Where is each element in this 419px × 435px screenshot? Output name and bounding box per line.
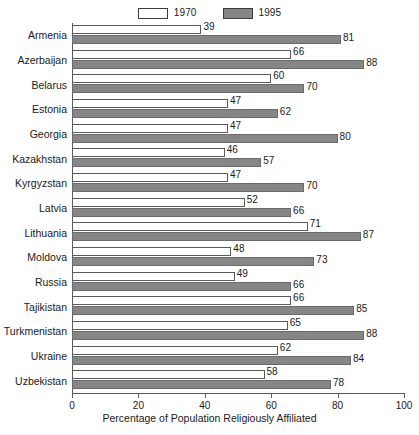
category-label-russia: Russia: [35, 277, 67, 288]
bar-turkmenistan-1970: 65: [72, 321, 288, 330]
bar-estonia-1970: 47: [72, 99, 228, 108]
x-axis-line: [72, 393, 405, 394]
category-label-estonia: Estonia: [32, 104, 67, 115]
bar-uzbekistan-1995: 78: [72, 380, 331, 389]
bar-tajikistan-1995: 85: [72, 306, 354, 315]
bar-estonia-1995: 62: [72, 109, 278, 118]
bar-value-label: 70: [306, 82, 317, 92]
bar-value-label: 47: [230, 121, 241, 131]
bar-value-label: 88: [366, 58, 377, 68]
x-tick-0: [72, 393, 73, 398]
bar-moldova-1995: 73: [72, 257, 314, 266]
bar-value-label: 87: [363, 230, 374, 240]
bar-value-label: 71: [310, 219, 321, 229]
x-tick-label-80: 80: [332, 400, 343, 411]
legend-swatch-1970: [138, 8, 168, 19]
bar-kazakhstan-1970: 46: [72, 148, 225, 157]
bar-row: Georgia4780: [72, 122, 404, 147]
bar-row: Kazakhstan4657: [72, 146, 404, 171]
bar-value-label: 62: [280, 107, 291, 117]
bar-tajikistan-1970: 66: [72, 296, 291, 305]
bar-ukraine-1970: 62: [72, 346, 278, 355]
bar-value-label: 62: [280, 343, 291, 353]
bar-value-label: 48: [233, 244, 244, 254]
plot-area: 020406080100 Armenia3981Azerbaijan6688Be…: [72, 23, 404, 393]
bar-russia-1970: 49: [72, 272, 235, 281]
bar-latvia-1970: 52: [72, 198, 245, 207]
bar-row: Turkmenistan6588: [72, 319, 404, 344]
legend-label-1970: 1970: [174, 8, 197, 18]
bar-belarus-1995: 70: [72, 84, 304, 93]
bar-value-label: 52: [247, 195, 258, 205]
category-label-armenia: Armenia: [28, 30, 67, 41]
bar-value-label: 60: [273, 71, 284, 81]
category-label-lithuania: Lithuania: [24, 227, 67, 238]
x-tick-80: [338, 393, 339, 398]
category-label-moldova: Moldova: [27, 252, 67, 263]
x-axis-title: Percentage of Population Religiously Aff…: [0, 412, 419, 424]
legend-label-1995: 1995: [259, 8, 282, 18]
bar-row: Estonia4762: [72, 97, 404, 122]
category-label-uzbekistan: Uzbekistan: [15, 375, 67, 386]
category-label-ukraine: Ukraine: [31, 351, 67, 362]
bar-latvia-1995: 66: [72, 208, 291, 217]
x-tick-20: [138, 393, 139, 398]
bar-value-label: 65: [290, 318, 301, 328]
bar-row: Azerbaijan6688: [72, 48, 404, 73]
bar-kazakhstan-1995: 57: [72, 158, 261, 167]
bar-value-label: 88: [366, 329, 377, 339]
bar-row: Ukraine6284: [72, 344, 404, 369]
bar-value-label: 85: [356, 304, 367, 314]
bar-georgia-1995: 80: [72, 134, 338, 143]
x-tick-label-20: 20: [133, 400, 144, 411]
bar-value-label: 58: [267, 367, 278, 377]
religious-affiliation-bar-chart: 1970 1995 020406080100 Armenia3981Azerba…: [0, 0, 419, 435]
bar-value-label: 66: [293, 280, 304, 290]
bar-row: Kyrgyzstan4770: [72, 171, 404, 196]
bar-value-label: 46: [227, 145, 238, 155]
bar-value-label: 57: [263, 156, 274, 166]
category-label-latvia: Latvia: [39, 203, 67, 214]
category-label-turkmenistan: Turkmenistan: [4, 326, 67, 337]
bar-russia-1995: 66: [72, 282, 291, 291]
category-label-azerbaijan: Azerbaijan: [17, 55, 67, 66]
bar-value-label: 84: [353, 354, 364, 364]
bar-georgia-1970: 47: [72, 124, 228, 133]
x-tick-label-100: 100: [396, 400, 413, 411]
bar-row: Uzbekistan5878: [72, 368, 404, 393]
category-label-kazakhstan: Kazakhstan: [12, 153, 67, 164]
category-label-georgia: Georgia: [30, 129, 67, 140]
bar-belarus-1970: 60: [72, 74, 271, 83]
bar-ukraine-1995: 84: [72, 356, 351, 365]
x-tick-60: [271, 393, 272, 398]
bar-row: Russia4966: [72, 270, 404, 295]
bar-value-label: 39: [203, 22, 214, 32]
x-tick-40: [205, 393, 206, 398]
legend-entry-1970: 1970: [138, 8, 197, 19]
bar-azerbaijan-1995: 88: [72, 60, 364, 69]
bar-row: Lithuania7187: [72, 220, 404, 245]
bar-turkmenistan-1995: 88: [72, 331, 364, 340]
bar-value-label: 66: [293, 47, 304, 57]
bar-row: Tajikistan6685: [72, 294, 404, 319]
chart-legend: 1970 1995: [0, 4, 419, 22]
bar-value-label: 78: [333, 378, 344, 388]
bar-lithuania-1995: 87: [72, 232, 361, 241]
bar-value-label: 66: [293, 206, 304, 216]
bar-value-label: 70: [306, 181, 317, 191]
bar-row: Armenia3981: [72, 23, 404, 48]
x-tick-label-0: 0: [69, 400, 75, 411]
bar-kyrgyzstan-1970: 47: [72, 173, 228, 182]
bar-value-label: 66: [293, 293, 304, 303]
bar-value-label: 81: [343, 33, 354, 43]
bar-row: Latvia5266: [72, 196, 404, 221]
x-tick-100: [404, 393, 405, 398]
bar-armenia-1995: 81: [72, 35, 341, 44]
bar-value-label: 47: [230, 170, 241, 180]
legend-entry-1995: 1995: [223, 8, 282, 19]
legend-swatch-1995: [223, 8, 253, 19]
bar-value-label: 80: [340, 132, 351, 142]
bar-value-label: 73: [316, 255, 327, 265]
x-tick-label-60: 60: [266, 400, 277, 411]
bar-azerbaijan-1970: 66: [72, 50, 291, 59]
